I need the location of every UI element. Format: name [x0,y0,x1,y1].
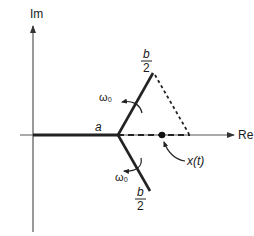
point-pointer-arrow [164,142,185,161]
lower-fraction-denominator: 2 [137,199,144,213]
upper-fraction-numerator: b [143,47,150,61]
complex-plane-diagram: Im Re a b 2 b 2 ω₀ ω₀ x(t) [0,0,254,236]
lower-fraction-numerator: b [137,185,144,199]
upper-fraction-denominator: 2 [143,61,150,75]
upper-rotation-label: ω₀ [99,91,112,103]
branch-point-label: a [95,120,102,134]
lower-rotation-label: ω₀ [115,171,128,183]
point-label: x(t) [186,154,204,168]
upper-branch-length-label: b 2 [141,47,152,75]
point-marker [159,132,166,139]
imaginary-axis-label: Im [30,7,43,21]
dotted-projection-line [155,75,189,134]
real-axis-label: Re [238,128,254,142]
lower-branch-length-label: b 2 [135,185,146,213]
